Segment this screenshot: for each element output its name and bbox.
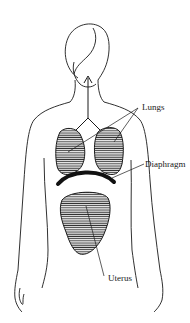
head-outline bbox=[65, 24, 109, 102]
lungs bbox=[56, 128, 124, 175]
left-lung bbox=[56, 128, 85, 174]
label-uterus: Uterus bbox=[108, 274, 132, 283]
label-diaphragm: Diaphragm bbox=[145, 160, 186, 169]
uterus bbox=[60, 192, 110, 254]
label-lungs: Lungs bbox=[142, 103, 165, 112]
anatomy-diagram: Lungs Diaphragm Uterus bbox=[0, 0, 190, 323]
